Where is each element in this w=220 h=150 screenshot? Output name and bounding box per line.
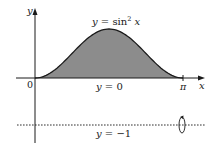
origin-label: 0	[27, 79, 33, 90]
curve-eq-sin: = sin	[98, 16, 128, 27]
y-neg-one-label: y = −1	[95, 128, 131, 139]
x-axis-label: x	[199, 80, 205, 91]
solid-of-revolution-diagram: y x 0 π y = sin2 x y = 0 y = −1	[0, 0, 220, 150]
y-zero-eq: = 0	[102, 81, 123, 92]
curve-equation-label: y = sin2 x	[91, 15, 140, 27]
y-zero-label: y = 0	[95, 81, 123, 92]
pi-label: π	[179, 81, 187, 92]
y-axis-label: y	[26, 5, 33, 16]
y-neg-one-eq: = −1	[102, 128, 131, 139]
curve-eq-x: x	[131, 16, 140, 27]
y-axis-arrow-icon	[33, 8, 38, 15]
shaded-region	[35, 29, 183, 78]
